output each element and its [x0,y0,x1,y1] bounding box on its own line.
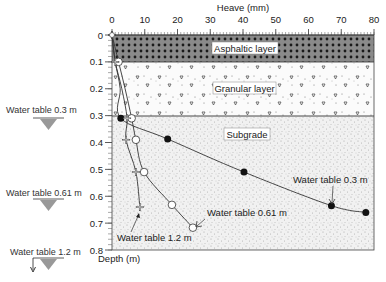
svg-text:Water table 1.2 m: Water table 1.2 m [10,247,81,257]
x-tick-label: 40 [238,14,249,25]
data-point [362,209,369,216]
x-tick-label: 60 [303,14,314,25]
subgrade-label: Subgrade [226,129,267,140]
x-tick-label: 30 [205,14,216,25]
wt12-annotation: Water table 1.2 m [117,232,192,243]
water-table-12-marker: Water table 1.2 m [10,247,81,272]
water-table-061-marker: Water table 0.61 m [6,188,82,211]
x-tick-label: 80 [369,14,380,25]
y-tick-label: 0.4 [90,137,103,148]
data-point [132,136,140,144]
svg-text:Water table 0.61 m: Water table 0.61 m [6,188,82,198]
y-tick-label: 0.2 [90,83,103,94]
water-table-03-marker: Water table 0.3 m [6,105,77,130]
wt061-annotation: Water table 0.61 m [207,207,287,218]
asphalt-label: Asphaltic layer [214,43,276,54]
y-tick-label: 0 [98,30,103,41]
x-tick-label: 50 [270,14,281,25]
x-tick-label: 70 [336,14,347,25]
chart-svg: Asphaltic layer Granular layer Subgrade … [0,0,386,282]
data-point [189,224,197,232]
water-table-markers: Water table 0.3 m Water table 0.61 m Wat… [6,105,82,272]
y-tick-label: 0.3 [90,110,103,121]
x-tick-label: 10 [139,14,150,25]
y-tick-label: 0.5 [90,164,103,175]
x-tick-label: 20 [172,14,183,25]
y-axis-title: Depth (m) [98,253,140,264]
wt03-annotation: Water table 0.3 m [293,174,368,185]
x-axis: Heave (mm) 01020304050607080 [109,2,379,35]
data-point [168,201,176,209]
data-point [240,169,247,176]
x-axis-title: Heave (mm) [217,2,269,13]
data-point [164,136,171,143]
svg-text:Water table 0.3 m: Water table 0.3 m [6,105,77,115]
y-tick-label: 0.1 [90,56,103,67]
y-tick-label: 0.6 [90,191,103,202]
granular-label: Granular layer [214,83,274,94]
data-point [140,168,148,176]
y-tick-label: 0.7 [90,218,103,229]
x-tick-label: 0 [109,14,114,25]
